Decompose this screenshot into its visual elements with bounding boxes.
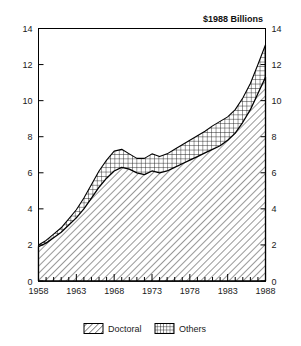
y-tick-label-left: 4 <box>27 204 32 214</box>
y-tick-label-left: 0 <box>27 277 32 287</box>
x-tick-label: 1983 <box>218 286 238 296</box>
unit-label: $1988 Billions <box>203 14 263 24</box>
y-tick-label-right: 8 <box>272 132 277 142</box>
x-tick-label: 1968 <box>104 286 124 296</box>
y-tick-label-right: 10 <box>272 96 282 106</box>
y-tick-label-right: 6 <box>272 168 277 178</box>
y-tick-label-left: 12 <box>22 60 32 70</box>
y-tick-label-left: 2 <box>27 240 32 250</box>
x-tick-label: 1958 <box>28 286 48 296</box>
x-tick-label: 1973 <box>142 286 162 296</box>
y-tick-label-left: 8 <box>27 132 32 142</box>
stacked-area-chart: 02468101214 02468101214 1958196319681973… <box>0 0 301 346</box>
y-tick-label-right: 2 <box>272 240 277 250</box>
chart-container: 02468101214 02468101214 1958196319681973… <box>0 0 301 346</box>
y-tick-label-right: 14 <box>272 24 282 34</box>
y-tick-label-left: 14 <box>22 24 32 34</box>
y-tick-label-left: 10 <box>22 96 32 106</box>
x-tick-label: 1978 <box>180 286 200 296</box>
legend-label-doctoral: Doctoral <box>108 324 142 334</box>
y-tick-label-left: 6 <box>27 168 32 178</box>
diagonal-hatch-swatch <box>84 324 103 334</box>
x-tick-label: 1963 <box>66 286 86 296</box>
cross-hatch-swatch <box>155 324 174 334</box>
y-tick-label-right: 12 <box>272 60 282 70</box>
y-tick-label-right: 0 <box>272 277 277 287</box>
y-tick-label-right: 4 <box>272 204 277 214</box>
legend-label-others: Others <box>179 324 207 334</box>
x-tick-label: 1988 <box>255 286 275 296</box>
